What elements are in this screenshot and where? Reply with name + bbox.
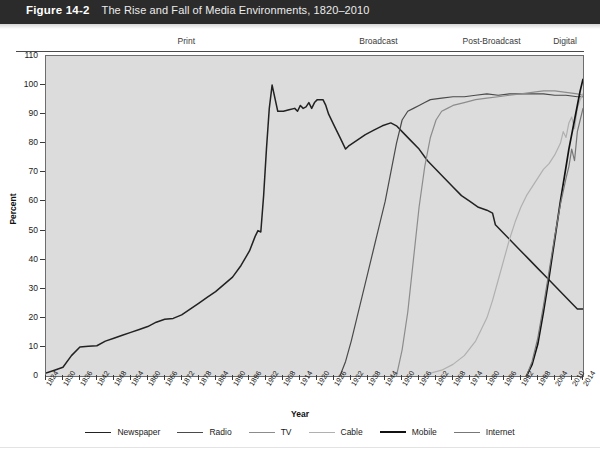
legend-item-mobile[interactable]: Mobile [380, 427, 437, 437]
legend-label: Radio [209, 427, 231, 437]
y-tick-label: 70 [10, 166, 38, 176]
y-tick-label: 50 [10, 225, 38, 235]
era-label-strip: PrintBroadcastPost-BroadcastDigital [0, 36, 600, 50]
y-tick-label: 80 [10, 137, 38, 147]
era-label-post-broadcast: Post-Broadcast [462, 36, 520, 46]
y-tick-label: 100 [10, 79, 38, 89]
y-tick-mark [40, 113, 45, 114]
y-tick-label: 90 [10, 108, 38, 118]
legend-item-tv[interactable]: TV [249, 427, 292, 437]
legend-line-icon [309, 432, 335, 433]
y-tick-label: 0 [10, 370, 38, 380]
era-label-broadcast: Broadcast [359, 36, 397, 46]
series-line-newspaper [46, 85, 583, 373]
legend-line-icon [85, 432, 111, 433]
y-tick-mark [40, 288, 45, 289]
legend-line-icon [454, 432, 480, 433]
figure-title: The Rise and Fall of Media Environments,… [102, 4, 370, 16]
chart-container: Percent Year 010203040506070809010011018… [0, 52, 600, 402]
legend-label: Cable [341, 427, 363, 437]
y-tick-mark [40, 142, 45, 143]
y-tick-mark [40, 200, 45, 201]
figure-number: Figure 14-2 [26, 4, 90, 16]
y-tick-mark [40, 317, 45, 318]
y-tick-mark [40, 230, 45, 231]
era-label-print: Print [178, 36, 195, 46]
y-tick-mark [40, 171, 45, 172]
series-line-mobile [526, 79, 583, 376]
legend-label: Mobile [412, 427, 437, 437]
x-axis-title: Year [0, 409, 600, 419]
y-tick-label: 60 [10, 195, 38, 205]
legend-item-cable[interactable]: Cable [309, 427, 363, 437]
y-tick-mark [40, 346, 45, 347]
legend-line-icon [380, 431, 406, 433]
chart-legend: NewspaperRadioTVCableMobileInternet [0, 424, 600, 440]
y-tick-mark [40, 84, 45, 85]
header-shadow [0, 24, 600, 29]
series-line-cable [430, 94, 583, 373]
y-tick-label: 20 [10, 312, 38, 322]
y-tick-label: 40 [10, 254, 38, 264]
legend-item-internet[interactable]: Internet [454, 427, 515, 437]
plot-lines [46, 56, 583, 376]
series-line-radio [340, 94, 583, 376]
legend-line-icon [249, 432, 275, 433]
figure-header-bar: Figure 14-2 The Rise and Fall of Media E… [0, 0, 600, 24]
legend-line-icon [177, 432, 203, 433]
y-tick-label: 30 [10, 283, 38, 293]
legend-item-newspaper[interactable]: Newspaper [85, 427, 160, 437]
y-tick-mark [40, 259, 45, 260]
page-edge-line [0, 447, 600, 448]
y-tick-label: 10 [10, 341, 38, 351]
legend-label: Newspaper [117, 427, 160, 437]
y-tick-label: 110 [10, 50, 38, 60]
plot-area [45, 55, 584, 377]
legend-label: TV [281, 427, 292, 437]
legend-label: Internet [486, 427, 515, 437]
era-label-digital: Digital [553, 36, 577, 46]
legend-item-radio[interactable]: Radio [177, 427, 231, 437]
